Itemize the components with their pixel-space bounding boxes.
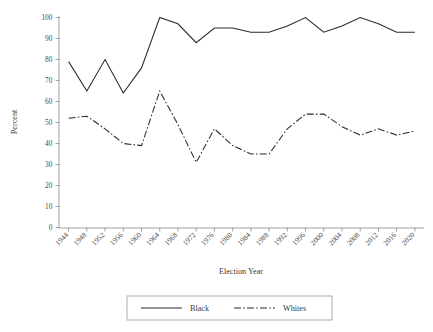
x-tick-label: 1964: [144, 230, 161, 247]
x-tick-label: 2000: [308, 230, 325, 247]
y-tick-label: 50: [45, 118, 53, 127]
x-tick-label: 1944: [53, 230, 70, 247]
x-tick-label: 1996: [290, 230, 307, 247]
y-tick-label: 40: [45, 139, 53, 148]
y-tick-label: 0: [49, 223, 53, 232]
x-tick-label: 1960: [126, 230, 143, 247]
x-tick-label: 2004: [327, 230, 344, 247]
x-tick-label: 1992: [272, 230, 289, 247]
x-tick-label: 1972: [181, 230, 198, 247]
x-tick-label: 1980: [217, 230, 234, 247]
y-tick-label: 70: [45, 76, 53, 85]
legend-label-whites: Whites: [283, 304, 306, 313]
y-tick-label: 20: [45, 181, 53, 190]
x-axis: 1944194819521956196019641968197219761980…: [53, 228, 424, 277]
y-tick-label: 80: [45, 55, 53, 64]
y-tick-label: 10: [45, 202, 53, 211]
legend: Black Whites: [127, 296, 332, 320]
line-chart: 0102030405060708090100 Percent 194419481…: [0, 0, 433, 332]
x-tick-group: 1944194819521956196019641968197219761980…: [53, 228, 416, 248]
x-tick-label: 1988: [254, 230, 271, 247]
x-tick-label: 2020: [399, 230, 416, 247]
y-axis-title: Percent: [10, 109, 19, 134]
chart-container: 0102030405060708090100 Percent 194419481…: [0, 0, 433, 332]
y-tick-group: 0102030405060708090100: [41, 13, 59, 232]
x-tick-label: 1976: [199, 230, 216, 247]
y-tick-label: 30: [45, 160, 53, 169]
x-axis-title: Election Year: [219, 267, 263, 276]
y-tick-label: 60: [45, 97, 53, 106]
x-tick-label: 1952: [90, 230, 107, 247]
series-group: [69, 18, 415, 163]
x-tick-label: 1968: [163, 230, 180, 247]
y-tick-label: 90: [45, 34, 53, 43]
x-tick-label: 1956: [108, 230, 125, 247]
series-line-black: [69, 18, 415, 94]
legend-label-black: Black: [190, 304, 210, 313]
x-tick-label: 2008: [345, 230, 362, 247]
series-line-whites: [69, 91, 415, 162]
x-tick-label: 2016: [381, 230, 398, 247]
x-tick-label: 1984: [235, 230, 252, 247]
x-tick-label: 2012: [363, 230, 380, 247]
x-tick-label: 1948: [71, 230, 88, 247]
y-tick-label: 100: [41, 13, 52, 22]
y-axis: 0102030405060708090100 Percent: [10, 13, 60, 232]
